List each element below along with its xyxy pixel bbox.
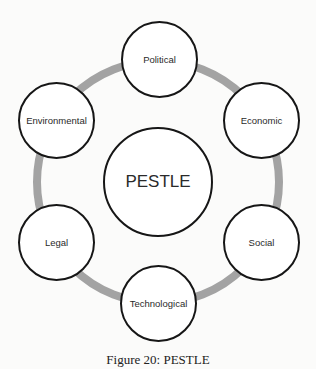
node-economic: Economic <box>223 82 300 159</box>
node-technological: Technological <box>120 265 197 342</box>
node-technological-label: Technological <box>130 298 188 309</box>
node-environmental-label: Environmental <box>26 115 87 126</box>
figure-caption: Figure 20: PESTLE <box>0 352 316 368</box>
node-legal: Legal <box>18 204 95 281</box>
node-legal-label: Legal <box>45 237 68 248</box>
node-political: Political <box>121 21 198 98</box>
center-label: PESTLE <box>125 172 190 192</box>
node-social: Social <box>223 204 300 281</box>
node-political-label: Political <box>143 54 176 65</box>
node-center-pestle: PESTLE <box>103 127 213 237</box>
node-social-label: Social <box>249 237 275 248</box>
node-environmental: Environmental <box>18 82 95 159</box>
node-economic-label: Economic <box>241 115 283 126</box>
